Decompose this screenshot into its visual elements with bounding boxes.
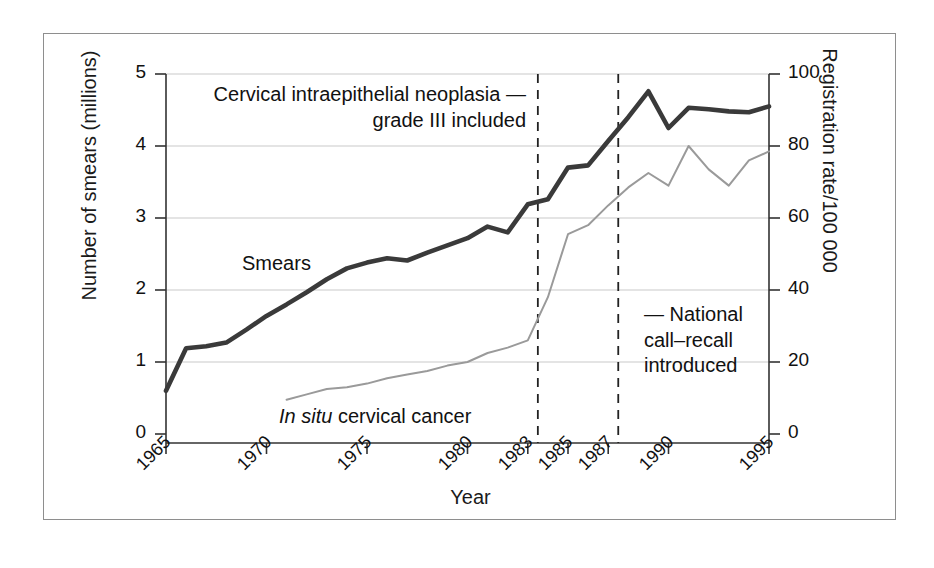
annotation-national-call-recall: — National call–recall introduced (644, 302, 804, 379)
chart-plot-area: 012345 020406080100 19651970197519801983… (44, 34, 895, 519)
series-label-insitu-italic-part: In situ (279, 405, 332, 427)
series-label-insitu-rest-part: cervical cancer (332, 405, 471, 427)
y-axis-left-tick-2: 2 (106, 277, 146, 299)
y-axis-left-tick-4: 4 (106, 133, 146, 155)
y-axis-left-tick-3: 3 (106, 205, 146, 227)
y-axis-left-tick-5: 5 (106, 61, 146, 83)
x-axis-title: Year (44, 486, 897, 509)
figure-frame: 012345 020406080100 19651970197519801983… (43, 33, 896, 520)
series-label-insitu-cervical-cancer: In situ cervical cancer (279, 404, 471, 430)
y-axis-left-tick-0: 0 (106, 421, 146, 443)
y-axis-right-title: Registration rate/100 000 (818, 0, 841, 326)
reference-lines (538, 74, 618, 443)
y-axis-right-tick-0: 0 (788, 421, 836, 443)
annotation-cin-grade3: Cervical intraepithelial neoplasia — gra… (196, 82, 526, 133)
y-axis-left-title: Number of smears (millions) (78, 11, 101, 341)
series-label-smears: Smears (242, 251, 311, 277)
y-axis-left-tick-1: 1 (106, 349, 146, 371)
